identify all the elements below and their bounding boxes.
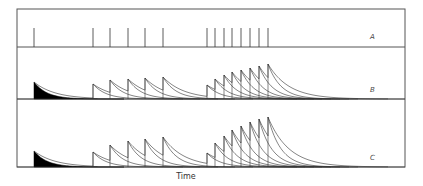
panel-c-envelope: [34, 117, 388, 167]
panel-b-response-5: [145, 78, 235, 99]
panel-c-response-14: [268, 117, 358, 167]
synaptic-summation-diagram: A B C Time: [0, 0, 423, 186]
panel-a-spike-train: [34, 28, 268, 47]
panel-c-response-1: [34, 151, 124, 167]
panel-label-b: B: [370, 86, 375, 94]
panel-b-response-1: [34, 82, 124, 99]
panel-b-envelope: [34, 64, 388, 99]
figure-frame: [17, 9, 405, 167]
panel-c-responses: [17, 117, 405, 167]
x-axis-label: Time: [175, 172, 196, 181]
panel-b-response-14: [268, 64, 358, 99]
panel-c-response-5: [145, 139, 235, 167]
panel-label-a: A: [369, 33, 375, 41]
panel-label-c: C: [370, 154, 375, 162]
panel-b-responses: [17, 64, 405, 99]
